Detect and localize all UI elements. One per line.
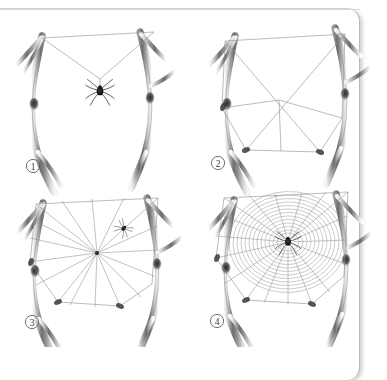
panel-4-number: 4 [215, 317, 220, 327]
panel-3-frame-threads [30, 198, 158, 306]
panel-1-caption: 1 [26, 159, 39, 172]
panel-2-frame-threads [222, 34, 345, 152]
panel-4: 4 [208, 188, 371, 347]
panel-3-hub [95, 251, 99, 255]
panel-1-number: 1 [31, 162, 36, 172]
panel-4-caption: 4 [210, 314, 223, 327]
panel-2-number: 2 [216, 159, 221, 169]
panel-4-branch-right [327, 194, 371, 347]
panel-3: 3 [17, 198, 182, 347]
panel-1-branch-right [131, 32, 175, 188]
panel-2-branch-right [326, 28, 370, 184]
panel-1-branch-left [16, 36, 61, 192]
panel-2-anchors [219, 102, 325, 156]
panel-3-number: 3 [30, 318, 35, 328]
panel-2: 2 [209, 28, 370, 192]
panel-3-radial-spokes [29, 198, 158, 307]
panel-1: 1 [16, 32, 175, 192]
panel-2-caption: 2 [211, 156, 224, 169]
panel-1-threads [42, 32, 154, 86]
